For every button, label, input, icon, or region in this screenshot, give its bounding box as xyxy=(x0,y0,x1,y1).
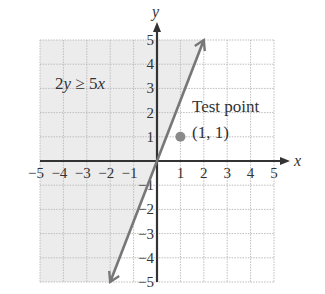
x-tick-label: 4 xyxy=(247,165,255,181)
x-tick-label: 1 xyxy=(177,165,185,181)
y-tick-label: −4 xyxy=(138,250,154,266)
x-tick-label: 5 xyxy=(270,165,278,181)
y-tick-label: 3 xyxy=(147,80,155,96)
x-tick-label: 2 xyxy=(200,165,208,181)
y-axis-arrow-icon xyxy=(153,22,161,32)
y-tick-label: 4 xyxy=(147,56,155,72)
x-tick-label: −2 xyxy=(98,165,114,181)
x-tick-label: −3 xyxy=(75,165,91,181)
y-tick-label: −3 xyxy=(138,226,154,242)
x-tick-label: 3 xyxy=(223,165,231,181)
x-tick-label: −5 xyxy=(28,165,44,181)
inequality-label: 2y ≥ 5x xyxy=(55,74,105,93)
y-axis-label: y xyxy=(150,3,160,21)
x-axis-arrow-icon xyxy=(280,157,290,165)
inequality-graph: x y −5−4−3−2−112345 54321−1−2−3−4−5 2y ≥… xyxy=(0,0,325,294)
x-axis-label: x xyxy=(293,152,301,169)
y-tick-label: 1 xyxy=(147,129,155,145)
y-tick-label: −5 xyxy=(138,274,154,290)
test-point-marker xyxy=(175,132,185,142)
y-tick-label: 2 xyxy=(147,105,155,121)
y-tick-label: 5 xyxy=(147,32,155,48)
test-point-label: Test point xyxy=(192,97,260,116)
x-tick-label: −1 xyxy=(122,165,138,181)
x-tick-label: −4 xyxy=(51,165,67,181)
test-point-coordinates: (1, 1) xyxy=(192,123,229,142)
